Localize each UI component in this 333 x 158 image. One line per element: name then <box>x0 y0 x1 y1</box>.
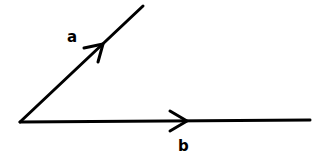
vector-a-line <box>20 6 143 122</box>
vector-b-label: b <box>178 137 189 155</box>
vector-a-label: a <box>67 28 77 46</box>
vector-diagram: a b <box>0 0 333 158</box>
vector-b-line <box>20 120 310 122</box>
